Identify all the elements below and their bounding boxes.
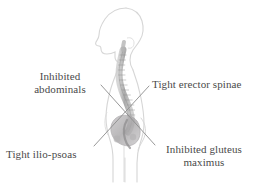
skull-rear-outline (126, 8, 143, 70)
label-tight-erector-spinae: Tight erector spinae (152, 78, 256, 91)
label-inhibited-abdominals: Inhibited abdominals (18, 70, 102, 95)
femur-head-left (114, 136, 121, 143)
cervical-spine (123, 42, 124, 50)
diagram-page: Inhibited abdominals Tight erector spina… (0, 0, 260, 184)
femur-head-right (130, 134, 136, 140)
ear-outline (127, 38, 134, 49)
label-inhibited-gluteus-maximus: Inhibited gluteus maximus (152, 143, 256, 168)
pelvis-group (111, 115, 140, 148)
label-tight-ilio-psoas: Tight ilio-psoas (6, 148, 98, 161)
